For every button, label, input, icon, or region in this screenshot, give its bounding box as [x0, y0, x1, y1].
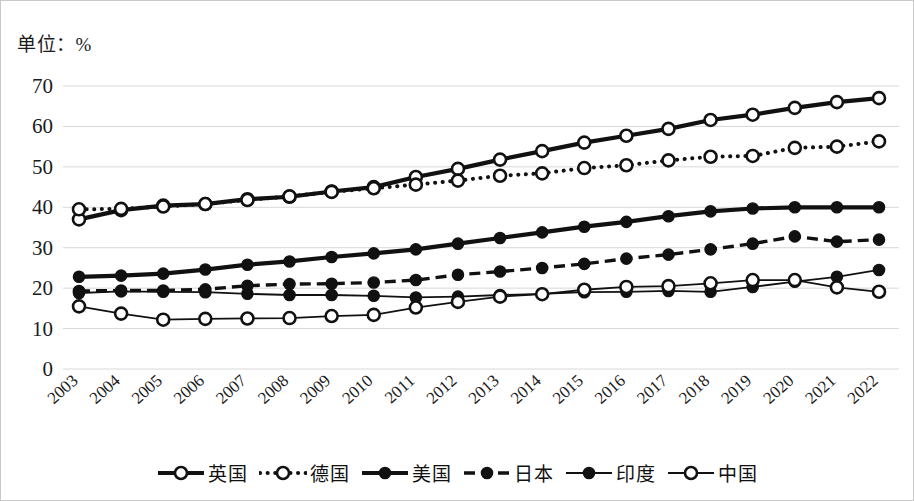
legend-item-label: 日本	[514, 459, 553, 486]
legend-marker	[175, 467, 187, 479]
x-tick-label: 2006	[170, 371, 208, 408]
data-point-germany	[662, 154, 674, 166]
data-point-usa	[284, 256, 295, 267]
legend-item-japan[interactable]: 日本	[463, 459, 553, 486]
x-tick-label: 2007	[212, 371, 250, 408]
legend-item-germany[interactable]: 德国	[259, 459, 349, 486]
x-tick-label: 2017	[633, 371, 671, 408]
data-point-china	[157, 314, 169, 326]
data-point-india	[242, 288, 253, 299]
x-tick-label: 2009	[296, 371, 334, 408]
legend-marker	[481, 467, 492, 478]
legend-item-label: 英国	[208, 459, 247, 486]
data-point-uk	[705, 114, 717, 126]
legend-item-india[interactable]: 印度	[565, 459, 655, 486]
legend-item-uk[interactable]: 英国	[157, 459, 247, 486]
data-point-india	[368, 290, 379, 301]
y-tick-label: 70	[32, 74, 53, 98]
legend-item-label: 印度	[616, 459, 655, 486]
data-point-uk	[662, 123, 674, 135]
data-point-uk	[873, 92, 885, 104]
data-point-usa	[537, 227, 548, 238]
data-point-japan	[326, 278, 337, 289]
data-point-japan	[873, 234, 884, 245]
data-point-china	[873, 286, 885, 298]
data-point-china	[662, 280, 674, 292]
data-point-usa	[621, 216, 632, 227]
data-point-usa	[705, 206, 716, 217]
data-point-usa	[73, 271, 84, 282]
data-point-japan	[747, 238, 758, 249]
data-point-china	[705, 277, 717, 289]
data-point-china	[368, 309, 380, 321]
gridlines	[63, 86, 899, 369]
data-point-uk	[620, 130, 632, 142]
series-layer	[73, 92, 885, 326]
x-tick-label: 2012	[423, 371, 461, 408]
data-point-china	[494, 291, 506, 303]
data-point-india	[116, 286, 127, 297]
data-point-usa	[747, 203, 758, 214]
data-point-germany	[241, 194, 253, 206]
data-point-usa	[158, 268, 169, 279]
data-point-germany	[620, 159, 632, 171]
data-point-japan	[831, 236, 842, 247]
legend-item-china[interactable]: 中国	[667, 459, 757, 486]
data-point-japan	[452, 269, 463, 280]
data-point-germany	[73, 203, 85, 215]
legend-item-label: 中国	[718, 459, 757, 486]
data-point-japan	[705, 244, 716, 255]
data-point-china	[73, 300, 85, 312]
data-point-germany	[452, 175, 464, 187]
data-point-germany	[831, 141, 843, 153]
data-point-germany	[789, 142, 801, 154]
data-point-china	[115, 308, 127, 320]
data-point-japan	[789, 231, 800, 242]
data-point-uk	[452, 163, 464, 175]
data-point-india	[284, 289, 295, 300]
data-point-usa	[242, 259, 253, 270]
data-point-germany	[410, 179, 422, 191]
x-tick-label: 2010	[338, 371, 376, 408]
data-point-usa	[831, 202, 842, 213]
x-tick-label: 2014	[507, 371, 545, 408]
data-point-japan	[410, 274, 421, 285]
y-tick-label: 20	[32, 276, 53, 300]
data-point-china	[747, 274, 759, 286]
data-point-japan	[621, 253, 632, 264]
data-point-uk	[494, 154, 506, 166]
data-point-china	[241, 312, 253, 324]
legend-item-usa[interactable]: 美国	[361, 459, 451, 486]
plot-area: 010203040506070 200320042005200620072008…	[1, 1, 914, 501]
line-chart-svg: 010203040506070 200320042005200620072008…	[1, 1, 914, 501]
data-point-germany	[326, 186, 338, 198]
legend-item-label: 美国	[412, 459, 451, 486]
data-point-usa	[116, 270, 127, 281]
x-tick-label: 2016	[591, 371, 629, 408]
data-point-japan	[579, 258, 590, 269]
data-point-usa	[326, 251, 337, 262]
legend-item-label: 德国	[310, 459, 349, 486]
series-china	[73, 274, 885, 326]
data-point-uk	[536, 145, 548, 157]
data-point-japan	[368, 277, 379, 288]
data-point-china	[578, 284, 590, 296]
data-point-china	[452, 296, 464, 308]
data-point-germany	[115, 203, 127, 215]
x-axis-tick-labels: 2003200420052006200720082009201020112012…	[44, 371, 882, 408]
data-point-china	[536, 288, 548, 300]
legend-marker	[277, 467, 289, 479]
data-point-uk	[578, 137, 590, 149]
data-point-usa	[663, 211, 674, 222]
x-tick-label: 2020	[759, 371, 797, 408]
data-point-china	[789, 274, 801, 286]
legend-marker	[379, 467, 390, 478]
data-point-japan	[537, 262, 548, 273]
legend-marker	[685, 467, 697, 479]
y-tick-label: 30	[32, 236, 53, 260]
y-tick-label: 10	[32, 317, 53, 341]
data-point-usa	[410, 244, 421, 255]
data-point-india	[73, 287, 84, 298]
data-point-china	[199, 313, 211, 325]
data-point-germany	[284, 190, 296, 202]
